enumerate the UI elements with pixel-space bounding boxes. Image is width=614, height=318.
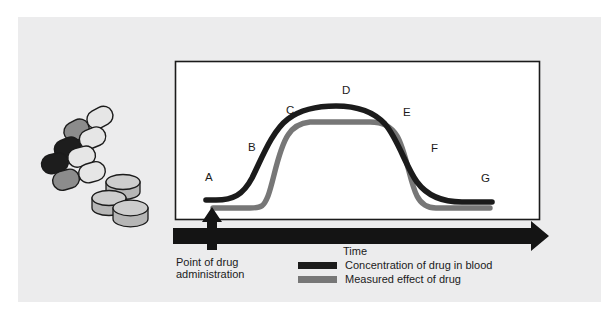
figure-root: A B C D E F G Time Point of drug adminis… [0, 0, 614, 318]
administration-caption-line2: administration [176, 268, 244, 280]
curve-point-label-c: C [286, 104, 295, 117]
legend-swatch-effect [298, 276, 337, 283]
administration-caption-line1: Point of drug [176, 256, 238, 268]
curve-point-label-f: F [431, 142, 438, 155]
time-axis-label: Time [343, 245, 367, 257]
tablet-3 [113, 200, 148, 227]
curve-point-label-b: B [248, 141, 256, 154]
curve-point-label-g: G [481, 172, 490, 185]
pills-illustration [40, 103, 148, 227]
curve-point-label-a: A [205, 171, 213, 184]
curve-point-label-d: D [342, 84, 351, 97]
curve-point-label-e: E [403, 106, 411, 119]
legend-label-concentration: Concentration of drug in blood [345, 259, 492, 271]
legend-label-effect: Measured effect of drug [345, 273, 461, 285]
legend-swatch-concentration [298, 262, 337, 269]
figure-graphics [0, 0, 614, 318]
